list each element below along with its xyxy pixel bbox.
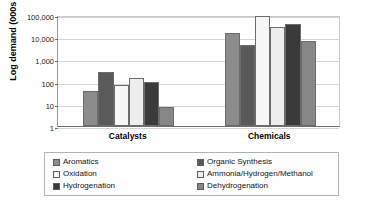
bar xyxy=(240,45,255,126)
bar xyxy=(285,24,300,126)
bar xyxy=(159,107,174,126)
bar xyxy=(98,72,113,126)
legend-item[interactable]: Aromatics xyxy=(53,156,115,168)
legend-swatch-icon xyxy=(197,159,204,166)
legend-item[interactable]: Oxidation xyxy=(53,168,115,180)
legend-swatch-icon xyxy=(197,171,204,178)
y-axis-tick-label: 10,000 xyxy=(31,35,54,44)
legend-swatch-icon xyxy=(53,183,60,190)
legend-item-label: Ammonia/Hydrogen/Methanol xyxy=(207,169,313,179)
legend-column-left: AromaticsOxidationHydrogenation xyxy=(53,156,115,192)
legend-item-label: Aromatics xyxy=(63,157,99,167)
legend-item[interactable]: Ammonia/Hydrogen/Methanol xyxy=(197,168,313,180)
legend-swatch-icon xyxy=(53,159,60,166)
bar xyxy=(255,16,270,127)
x-axis-category-label: Catalysts xyxy=(57,131,199,141)
bar xyxy=(83,91,98,126)
bar xyxy=(270,27,285,126)
legend-item-label: Organic Synthesis xyxy=(207,157,272,167)
bars-layer xyxy=(58,17,339,126)
y-axis-tick-label: 1,000 xyxy=(35,57,54,66)
legend-item[interactable]: Hydrogenation xyxy=(53,180,115,192)
bar-chart: Log demand (000s mt) 1101001,00010,00010… xyxy=(0,0,369,204)
legend-item-label: Dehydrogenation xyxy=(207,181,268,191)
bar xyxy=(225,33,240,126)
chart-legend: AromaticsOxidationHydrogenation Organic … xyxy=(44,152,339,196)
legend-swatch-icon xyxy=(197,183,204,190)
legend-item-label: Oxidation xyxy=(63,169,97,179)
legend-swatch-icon xyxy=(53,171,60,178)
gridline xyxy=(58,128,339,129)
y-axis-tick-label: 1 xyxy=(50,124,54,133)
x-axis-category-label: Chemicals xyxy=(199,131,341,141)
y-axis-tick-label: 10 xyxy=(46,101,54,110)
bar xyxy=(114,85,129,126)
y-axis-title: Log demand (000s mt) xyxy=(8,0,18,88)
y-axis-tick-mark xyxy=(55,128,58,129)
bar xyxy=(129,78,144,126)
legend-item[interactable]: Organic Synthesis xyxy=(197,156,313,168)
bar xyxy=(144,82,159,126)
bar xyxy=(301,41,316,126)
legend-column-right: Organic SynthesisAmmonia/Hydrogen/Methan… xyxy=(197,156,313,192)
plot-area: 1101001,00010,000100,000 xyxy=(57,16,340,127)
y-axis-tick-label: 100 xyxy=(41,79,54,88)
legend-item[interactable]: Dehydrogenation xyxy=(197,180,313,192)
y-axis-tick-label: 100,000 xyxy=(27,13,54,22)
legend-item-label: Hydrogenation xyxy=(63,181,115,191)
